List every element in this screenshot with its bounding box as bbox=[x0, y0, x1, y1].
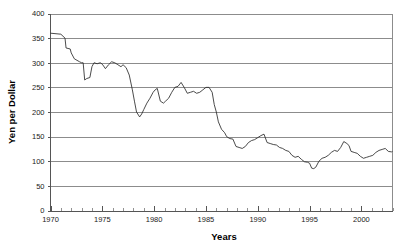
gridlines-group bbox=[51, 15, 393, 212]
x-tick-label-1985: 1985 bbox=[198, 215, 215, 224]
y-tick-label-400: 400 bbox=[32, 9, 45, 18]
data-series-group bbox=[51, 33, 393, 168]
x-tick-label-2000: 2000 bbox=[353, 215, 370, 224]
x-axis-tick-labels-group: 1970197519801985199019952000 bbox=[42, 215, 370, 224]
y-tick-label-250: 250 bbox=[32, 83, 45, 92]
x-tick-label-1975: 1975 bbox=[94, 215, 111, 224]
x-axis-title: Years bbox=[211, 231, 236, 242]
x-tick-label-1970: 1970 bbox=[42, 215, 59, 224]
chart-container: 050100150200250300350400 197019751980198… bbox=[0, 0, 408, 246]
y-tick-label-150: 150 bbox=[32, 132, 45, 141]
y-axis-tick-labels-group: 050100150200250300350400 bbox=[32, 9, 45, 215]
series-line-0 bbox=[51, 33, 393, 168]
y-tick-label-200: 200 bbox=[32, 108, 45, 117]
y-tick-label-50: 50 bbox=[36, 182, 44, 191]
y-axis-title: Yen per Dollar bbox=[6, 80, 17, 144]
x-tick-label-1995: 1995 bbox=[301, 215, 318, 224]
x-tick-label-1980: 1980 bbox=[146, 215, 163, 224]
x-axis-ticks-group bbox=[52, 206, 394, 211]
y-tick-label-300: 300 bbox=[32, 59, 45, 68]
y-tick-label-350: 350 bbox=[32, 34, 45, 43]
x-tick-label-1990: 1990 bbox=[249, 215, 266, 224]
y-tick-label-100: 100 bbox=[32, 157, 45, 166]
yen-per-dollar-line-chart: 050100150200250300350400 197019751980198… bbox=[0, 0, 408, 246]
